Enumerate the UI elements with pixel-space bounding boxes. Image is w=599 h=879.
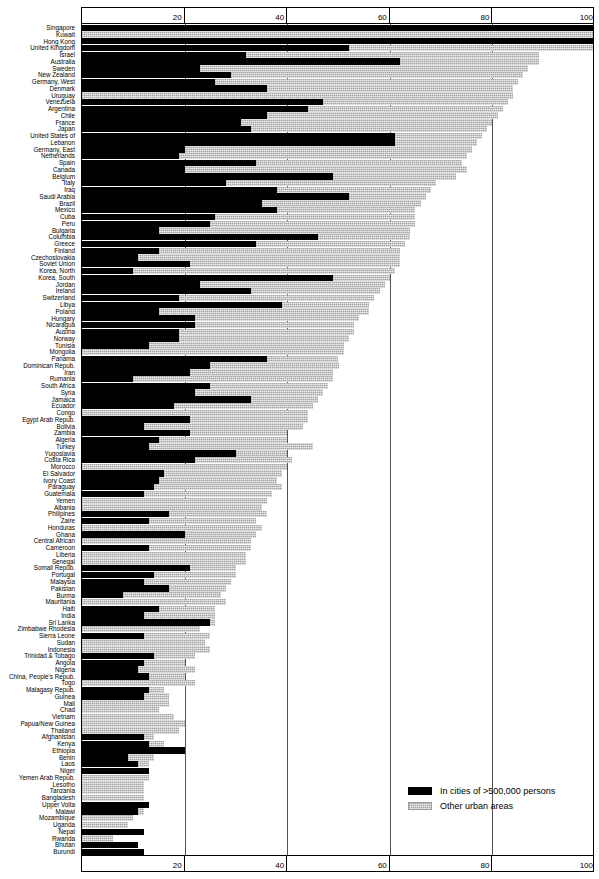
axis-tick-label: 80	[480, 861, 489, 870]
axis-tick-cell: 40	[185, 856, 288, 871]
axis-bottom: 20406080100	[81, 855, 594, 872]
axis-tick-cell: 100	[492, 8, 595, 23]
axis-tick-cell: 80	[390, 856, 493, 871]
category-label: Burundi	[53, 848, 75, 856]
axis-tick-label: 60	[378, 13, 387, 22]
axis-tick-cell: 80	[390, 8, 493, 23]
axis-top: 20406080100	[81, 7, 594, 24]
legend-swatch-other-urban	[408, 802, 432, 810]
axis-tick-label: 20	[173, 861, 182, 870]
legend-item-other-urban: Other urban areas	[408, 799, 588, 812]
plot-area	[81, 24, 594, 855]
axis-tick-cell: 60	[287, 8, 390, 23]
chart-page: 20406080100 SingaporeKuwaitHong KongUnit…	[0, 0, 599, 879]
axis-tick-label: 100	[580, 13, 593, 22]
axis-tick-cell: 40	[185, 8, 288, 23]
axis-tick-label: 60	[378, 861, 387, 870]
legend-swatch-big-cities	[408, 787, 432, 795]
axis-tick-label: 40	[275, 861, 284, 870]
axis-tick-label: 100	[580, 861, 593, 870]
legend-label-other-urban: Other urban areas	[440, 801, 513, 811]
axis-tick-cell: 20	[82, 856, 185, 871]
axis-tick-label: 80	[480, 13, 489, 22]
axis-tick-cell: 60	[287, 856, 390, 871]
bar-row	[82, 848, 593, 855]
category-labels: SingaporeKuwaitHong KongUnited KingdomIs…	[0, 24, 78, 855]
legend-item-big-cities: In cities of >500,000 persons	[408, 784, 588, 797]
legend-label-big-cities: In cities of >500,000 persons	[440, 786, 555, 796]
axis-tick-cell: 20	[82, 8, 185, 23]
bar-rows	[82, 24, 593, 855]
axis-tick-label: 40	[275, 13, 284, 22]
legend: In cities of >500,000 persons Other urba…	[408, 784, 588, 814]
axis-tick-label: 20	[173, 13, 182, 22]
axis-tick-cell: 100	[492, 856, 595, 871]
